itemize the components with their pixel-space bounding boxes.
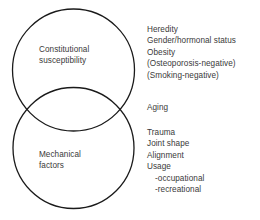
list-item: -occupational	[147, 173, 259, 184]
circle-constitutional-susceptibility	[13, 9, 135, 131]
list-item: Obesity	[147, 47, 259, 58]
list-item: Joint shape	[147, 138, 259, 149]
venn-diagram: Constitutional susceptibility Mechanical…	[0, 0, 260, 220]
list-item: (Osteoporosis-negative)	[147, 58, 259, 69]
list-item: Heredity	[147, 24, 259, 35]
list-item: -recreational	[147, 184, 259, 195]
list-item: Gender/hormonal status	[147, 35, 259, 46]
list-item: Usage	[147, 161, 259, 172]
list-item: Trauma	[147, 127, 259, 138]
circle-label-mechanical-factors: Mechanical factors	[39, 150, 119, 171]
constitutional-factors-list: Heredity Gender/hormonal status Obesity …	[147, 24, 259, 81]
list-item: Alignment	[147, 150, 259, 161]
shared-factors-list: Aging	[147, 102, 259, 113]
mechanical-factors-list: Trauma Joint shape Alignment Usage -occu…	[147, 127, 259, 195]
circle-mechanical-factors	[13, 88, 134, 209]
list-item: Aging	[147, 102, 259, 113]
list-item: (Smoking-negative)	[147, 70, 259, 81]
circle-label-constitutional-susceptibility: Constitutional susceptibility	[39, 45, 119, 66]
